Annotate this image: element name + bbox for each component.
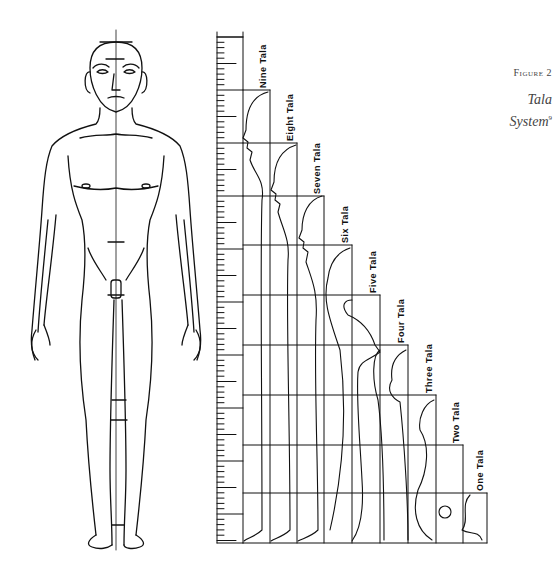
label-nine-tala: Nine Tala bbox=[258, 44, 268, 88]
tala-labels: Nine Tala Eight Tala Seven Tala Six Tala… bbox=[258, 44, 485, 491]
figure-title-line2: System9 bbox=[510, 109, 552, 131]
label-four-tala: Four Tala bbox=[396, 298, 406, 343]
footnote-mark: 9 bbox=[549, 114, 553, 122]
grid-figures bbox=[243, 92, 482, 541]
figure-title-system: System bbox=[510, 114, 549, 129]
label-seven-tala: Seven Tala bbox=[312, 142, 322, 194]
figure-title: Tala System9 bbox=[510, 91, 552, 131]
label-five-tala: Five Tala bbox=[368, 250, 378, 293]
label-three-tala: Three Tala bbox=[424, 343, 434, 393]
label-eight-tala: Eight Tala bbox=[285, 93, 295, 141]
label-one-tala: One Tala bbox=[475, 449, 485, 491]
label-six-tala: Six Tala bbox=[340, 205, 350, 243]
figure-title-line1: Tala bbox=[510, 91, 552, 109]
figure-label: Figure 2 bbox=[514, 67, 552, 78]
measurement-ruler bbox=[217, 32, 243, 543]
label-two-tala: Two Tala bbox=[451, 401, 461, 443]
human-figure bbox=[31, 30, 200, 550]
tala-diagram: Nine Tala Eight Tala Seven Tala Six Tala… bbox=[0, 0, 558, 575]
tala-grid bbox=[243, 32, 487, 543]
